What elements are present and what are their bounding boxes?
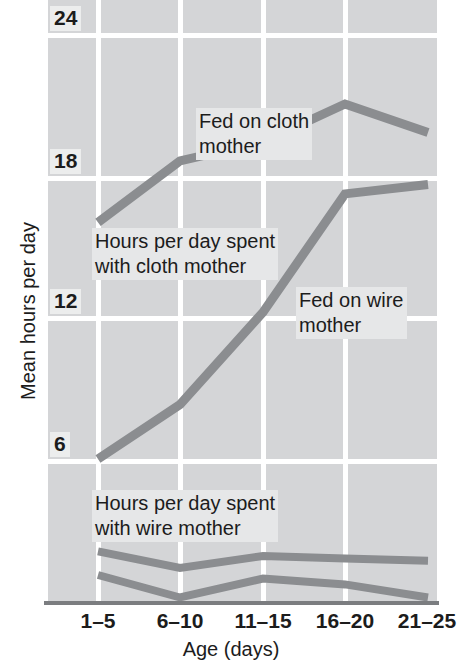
y-tick-label-12: 12: [50, 289, 81, 314]
annotation-fed-on-cloth-line-2: mother: [199, 134, 309, 159]
chart-root: 24 18 12 6 1–5 6–10 11–15 16–20 21–25 Ag…: [0, 0, 462, 663]
annotation-hours-cloth-line-2: with cloth mother: [95, 254, 275, 279]
y-tick-label-6: 6: [50, 432, 70, 457]
annotation-fed-on-wire-line-2: mother: [299, 313, 404, 338]
annotation-fed-on-cloth-line-1: Fed on cloth: [199, 109, 309, 134]
series-line-wire-lower: [98, 575, 428, 598]
x-axis-title: Age (days): [0, 638, 462, 660]
annotation-hours-wire-line-1: Hours per day spent: [95, 491, 275, 516]
x-tick-label-21-25: 21–25: [372, 608, 462, 634]
x-axis-line: [44, 601, 439, 605]
y-tick-label-18: 18: [50, 149, 81, 174]
annotation-hours-wire-line-2: with wire mother: [95, 516, 275, 541]
annotation-fed-on-cloth-mother: Fed on cloth mother: [196, 108, 312, 160]
annotation-hours-with-wire-mother: Hours per day spent with wire mother: [92, 490, 278, 542]
annotation-hours-with-cloth-mother: Hours per day spent with cloth mother: [92, 228, 278, 280]
y-tick-label-24: 24: [50, 6, 81, 31]
annotation-fed-on-wire-mother: Fed on wire mother: [296, 287, 407, 339]
series-line-wire-upper: [98, 551, 428, 568]
y-axis-title: Mean hours per day: [17, 191, 39, 431]
annotation-fed-on-wire-line-1: Fed on wire: [299, 288, 404, 313]
annotation-hours-cloth-line-1: Hours per day spent: [95, 229, 275, 254]
